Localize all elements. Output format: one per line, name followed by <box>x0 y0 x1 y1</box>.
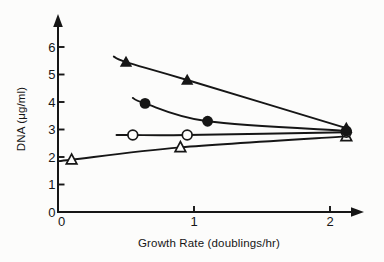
y-axis-title: DNA (μg/ml) <box>15 87 27 152</box>
x-tick-label: 2 <box>326 214 333 229</box>
series-line-filled-triangle <box>114 57 346 129</box>
marker-filled-circle <box>202 116 213 127</box>
y-tick-label: 0 <box>48 205 55 220</box>
figure: 0123456012 DNA (μg/ml) Growth Rate (doub… <box>0 0 384 262</box>
x-axis-title: Growth Rate (doublings/hr) <box>138 237 280 249</box>
y-tick-label: 2 <box>48 150 55 165</box>
y-tick-label: 3 <box>48 122 55 137</box>
x-tick-label: 0 <box>58 214 65 229</box>
series-line-open-triangle <box>58 136 346 161</box>
y-tick-label: 5 <box>48 67 55 82</box>
marker-open-circle <box>182 130 192 140</box>
series-line-open-circle <box>117 132 347 135</box>
series-line-filled-circle <box>133 98 346 131</box>
x-tick-label: 1 <box>190 214 197 229</box>
y-axis-arrow-icon <box>53 14 63 27</box>
marker-filled-circle <box>140 98 151 109</box>
y-tick-label: 4 <box>48 95 55 110</box>
line-chart: 0123456012 <box>0 0 384 262</box>
x-axis-arrow-icon <box>351 207 364 217</box>
y-tick-label: 1 <box>48 177 55 192</box>
y-tick-label: 6 <box>48 40 55 55</box>
marker-open-circle <box>128 130 138 140</box>
